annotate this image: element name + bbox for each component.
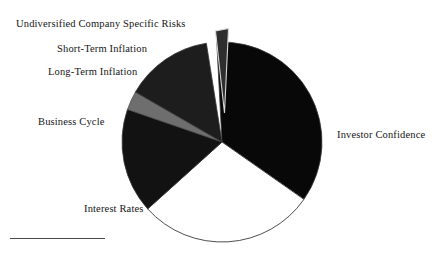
pie-label-interest-rates: Interest Rates (84, 203, 144, 215)
pie-label-investor-confidence: Investor Confidence (337, 129, 425, 141)
pie-label-short-term-inflation: Short-Term Inflation (57, 43, 147, 55)
pie-label-business-cycle: Business Cycle (38, 116, 105, 128)
pie-label-long-term-inflation: Long-Term Inflation (48, 66, 137, 78)
footnote-separator-rule (10, 238, 105, 239)
pie-label-undiversified-risks: Undiversified Company Specific Risks (16, 18, 186, 30)
pie-chart-figure: Undiversified Company Specific Risks Sho… (0, 0, 446, 253)
